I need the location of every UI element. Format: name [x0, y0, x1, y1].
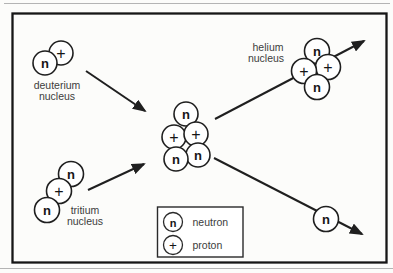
fusion-diagram: + n deuterium nucleus n + n tritium nucl… [0, 0, 393, 273]
legend: n neutron + proton [158, 207, 244, 257]
proton-legend-label: proton [193, 239, 223, 251]
proton-symbol: + [56, 45, 65, 62]
neutron-particle: n [35, 198, 60, 223]
neutron-legend-symbol: n [170, 217, 177, 229]
neutron-particle: n [305, 75, 330, 100]
deuterium-label-line2: nucleus [39, 90, 75, 102]
free-neutron: n [314, 207, 339, 232]
neutron-symbol: n [67, 167, 75, 182]
proton-symbol: + [191, 126, 200, 143]
proton-legend-symbol: + [169, 238, 177, 253]
proton-symbol: + [299, 63, 308, 80]
neutron-symbol: n [313, 80, 321, 95]
proton-symbol: + [169, 129, 178, 146]
fusion-diagram-page: + n deuterium nucleus n + n tritium nucl… [0, 0, 393, 273]
neutron-symbol: n [182, 107, 190, 122]
neutron-symbol: n [194, 148, 202, 163]
neutron-particle: n [186, 143, 210, 167]
neutron-symbol: n [172, 152, 180, 167]
helium-label-line2: nucleus [248, 52, 284, 64]
neutron-symbol: n [322, 212, 330, 227]
proton-particle: + [162, 125, 186, 149]
neutron-legend-label: neutron [193, 216, 229, 228]
neutron-symbol: n [41, 56, 49, 71]
neutron-particle: n [33, 51, 57, 75]
neutron-particle: n [164, 147, 188, 171]
neutron-symbol: n [43, 203, 51, 218]
proton-symbol: + [54, 183, 63, 200]
tritium-label-line2: nucleus [67, 215, 103, 227]
proton-symbol: + [323, 59, 332, 76]
